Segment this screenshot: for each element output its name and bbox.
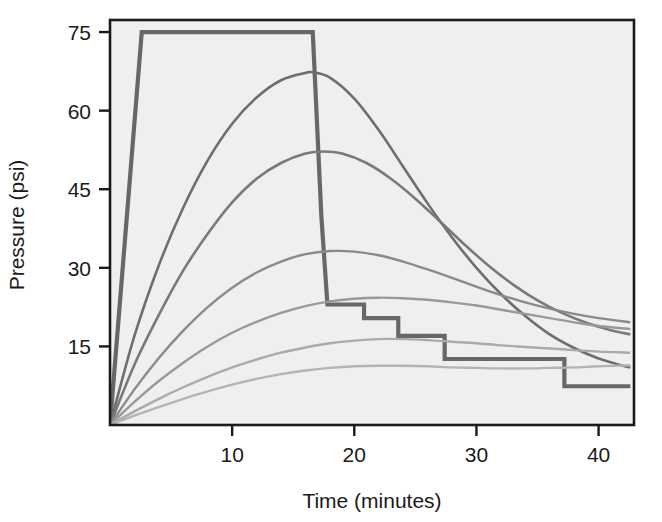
y-tick-label: 60 [68,100,91,123]
x-tick-label: 10 [220,443,243,466]
y-tick-label: 45 [68,178,91,201]
x-tick-label: 30 [465,443,488,466]
y-axis-title: Pressure (psi) [5,160,28,291]
figure-container: 10203040 1530456075 Time (minutes) Press… [0,0,662,522]
x-tick-label: 40 [587,443,610,466]
pressure-time-chart: 10203040 1530456075 Time (minutes) Press… [0,0,662,522]
y-tick-label: 75 [68,21,91,44]
y-tick-label: 30 [68,257,91,280]
y-tick-label: 15 [68,335,91,358]
x-tick-label: 20 [343,443,366,466]
plot-area-background [110,20,634,425]
x-axis-title: Time (minutes) [302,489,441,512]
